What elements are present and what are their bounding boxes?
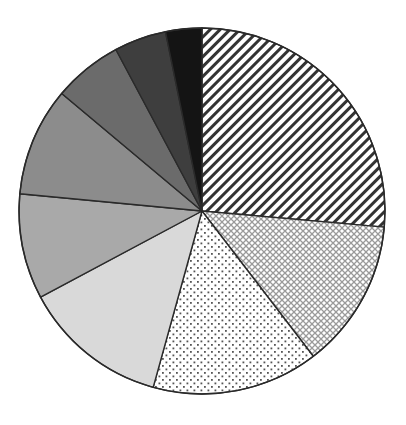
pie-slices	[19, 28, 385, 394]
pie-chart	[0, 0, 406, 425]
pie-chart-svg	[0, 0, 406, 425]
pie-slice-1	[202, 28, 385, 227]
